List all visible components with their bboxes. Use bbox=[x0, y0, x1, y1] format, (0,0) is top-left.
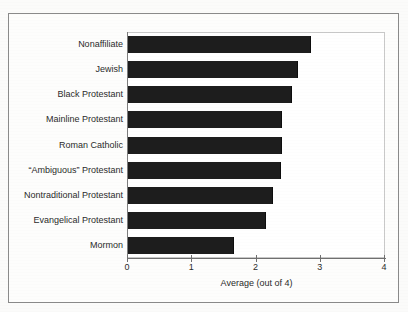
category-label: Black Protestant bbox=[8, 89, 123, 99]
category-label: Mormon bbox=[8, 240, 123, 250]
bar bbox=[128, 237, 234, 254]
chart-figure: NonaffiliateJewishBlack ProtestantMainli… bbox=[0, 0, 408, 312]
bar bbox=[128, 187, 273, 204]
category-label: Mainline Protestant bbox=[8, 114, 123, 124]
category-label: Roman Catholic bbox=[8, 140, 123, 150]
category-axis-labels: NonaffiliateJewishBlack ProtestantMainli… bbox=[8, 32, 123, 258]
category-label: Nontraditional Protestant bbox=[8, 190, 123, 200]
x-tick-mark bbox=[127, 255, 128, 262]
x-tick-mark bbox=[320, 255, 321, 262]
bar bbox=[128, 162, 281, 179]
category-label: Nonaffiliate bbox=[8, 39, 123, 49]
x-tick-mark bbox=[384, 255, 385, 262]
x-tick-label: 2 bbox=[246, 262, 266, 273]
bar bbox=[128, 111, 282, 128]
category-label: “Ambiguous” Protestant bbox=[8, 165, 123, 175]
x-tick-mark bbox=[191, 255, 192, 262]
bars-layer bbox=[128, 32, 385, 258]
x-tick-label: 3 bbox=[310, 262, 330, 273]
x-axis-line bbox=[127, 258, 386, 259]
bar bbox=[128, 86, 292, 103]
x-tick-label: 0 bbox=[117, 262, 137, 273]
category-label: Evangelical Protestant bbox=[8, 215, 123, 225]
x-tick-mark bbox=[256, 255, 257, 262]
x-tick-label: 4 bbox=[374, 262, 394, 273]
bar bbox=[128, 212, 266, 229]
x-axis-title: Average (out of 4) bbox=[127, 278, 386, 289]
bar bbox=[128, 36, 311, 53]
bar bbox=[128, 137, 282, 154]
x-tick-label: 1 bbox=[181, 262, 201, 273]
bar bbox=[128, 61, 298, 78]
category-label: Jewish bbox=[8, 64, 123, 74]
